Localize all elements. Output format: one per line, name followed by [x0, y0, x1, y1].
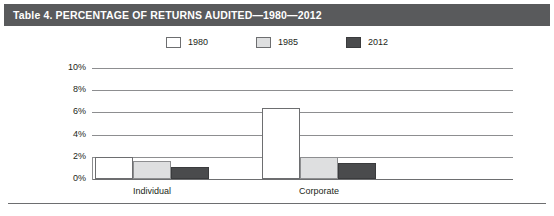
plot-area: [92, 68, 513, 179]
gridline-10%: [92, 68, 513, 69]
y-tick-label-0%: 0%: [52, 174, 86, 183]
chart-title: Table 4. PERCENTAGE OF RETURNS AUDITED—1…: [4, 9, 322, 21]
y-tick-label-2%: 2%: [52, 152, 86, 161]
y-axis-line: [92, 157, 93, 180]
gridline-6%: [92, 112, 513, 113]
figure-container: Table 4. PERCENTAGE OF RETURNS AUDITED—1…: [0, 0, 554, 216]
legend-label-1980: 1980: [188, 37, 208, 47]
x-axis-category-labels: IndividualCorporate: [92, 186, 513, 200]
x-category-label-corporate: Corporate: [299, 186, 339, 196]
figure-bottom-rule: [8, 203, 546, 204]
gridline-8%: [92, 90, 513, 91]
bar-corporate-2012: [338, 163, 376, 179]
legend-label-1985: 1985: [278, 37, 298, 47]
bar-individual-1985: [133, 161, 171, 179]
legend-swatch-1985: [256, 37, 271, 48]
x-axis-baseline: [92, 179, 513, 180]
chart-legend: 1980 1985 2012: [0, 34, 554, 50]
legend-swatch-2012: [346, 37, 361, 48]
y-tick-label-10%: 10%: [52, 63, 86, 72]
x-category-label-individual: Individual: [133, 186, 171, 196]
gridline-4%: [92, 135, 513, 136]
y-tick-label-4%: 4%: [52, 130, 86, 139]
legend-label-2012: 2012: [368, 37, 388, 47]
y-tick-label-6%: 6%: [52, 107, 86, 116]
legend-swatch-1980: [166, 37, 181, 48]
y-axis-tick-labels: 0%2%4%6%8%10%: [50, 68, 86, 179]
bar-individual-1980: [95, 157, 133, 179]
bar-corporate-1985: [300, 157, 338, 179]
bar-corporate-1980: [262, 108, 300, 179]
legend-item-1980: 1980: [166, 37, 208, 48]
bar-individual-2012: [171, 167, 209, 179]
y-tick-label-8%: 8%: [52, 85, 86, 94]
legend-item-2012: 2012: [346, 37, 388, 48]
chart-title-bar: Table 4. PERCENTAGE OF RETURNS AUDITED—1…: [4, 4, 550, 26]
legend-item-1985: 1985: [256, 37, 298, 48]
